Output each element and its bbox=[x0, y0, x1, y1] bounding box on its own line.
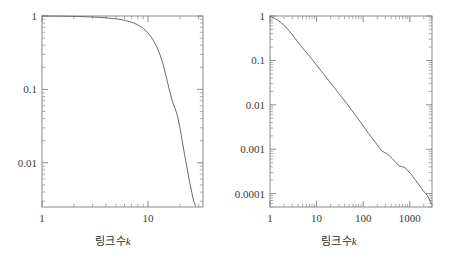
data-series-line bbox=[42, 16, 195, 206]
x-axis-tick-label: 1000 bbox=[399, 212, 422, 224]
y-axis-tick-label: 0.001 bbox=[240, 143, 265, 155]
plot-area-left: 11010.10.01 bbox=[0, 0, 226, 232]
x-axis-caption-variable-left: k bbox=[126, 235, 131, 247]
x-axis-caption-right: 링크수k bbox=[226, 232, 452, 248]
x-axis-caption-left: 링크수k bbox=[0, 232, 226, 248]
x-axis-tick-label: 10 bbox=[143, 212, 155, 224]
chart-panel-right: 110100100010.10.010.0010.0001 링크수k bbox=[226, 0, 452, 265]
figure-container: 11010.10.01 링크수k 110100100010.10.010.001… bbox=[0, 0, 452, 265]
y-axis-tick-label: 0.01 bbox=[246, 99, 265, 111]
y-axis-tick-label: 0.01 bbox=[18, 157, 37, 169]
chart-panel-left: 11010.10.01 링크수k bbox=[0, 0, 226, 265]
plot-frame bbox=[270, 16, 432, 207]
x-axis-tick-label: 1 bbox=[267, 212, 273, 224]
data-series-line bbox=[270, 16, 431, 203]
x-axis-tick-label: 100 bbox=[355, 212, 372, 224]
x-axis-tick-label: 1 bbox=[39, 212, 45, 224]
x-axis-caption-label-left: 링크수 bbox=[95, 235, 126, 248]
y-axis-tick-label: 0.0001 bbox=[235, 188, 265, 200]
x-axis-caption-label-right: 링크수 bbox=[321, 235, 352, 248]
plot-area-right: 110100100010.10.010.0010.0001 bbox=[226, 0, 452, 232]
y-axis-tick-label: 1 bbox=[32, 10, 38, 22]
y-axis-tick-label: 0.1 bbox=[251, 54, 265, 66]
x-axis-caption-variable-right: k bbox=[352, 235, 357, 247]
plot-frame bbox=[42, 16, 203, 207]
y-axis-tick-label: 0.1 bbox=[23, 83, 37, 95]
x-axis-tick-label: 10 bbox=[311, 212, 323, 224]
y-axis-tick-label: 1 bbox=[260, 10, 266, 22]
